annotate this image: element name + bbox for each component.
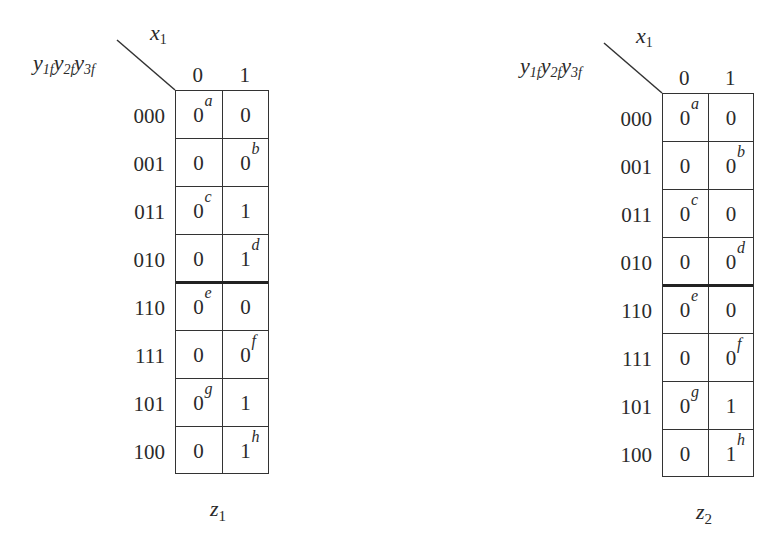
karnaugh-map-z2: x1y1fy2fy3f010000a000100b0110c001000d110… [0,0,781,543]
header-diagonal-line [600,41,670,101]
kmap-cell: 0 [662,156,708,177]
kmap-cell: 0 [662,300,708,321]
row-divider [663,429,753,430]
half-divider-thick [663,284,753,287]
kmap-cell: 0 [662,396,708,417]
kmap-cell: 1 [708,444,754,465]
function-name-label: z2 [696,499,712,528]
cell-state-tag: e [691,287,698,305]
cell-state-tag: g [691,383,699,401]
row-label-010: 010 [592,251,652,276]
kmap-cell: 0 [662,108,708,129]
kmap-cell: 1 [708,396,754,417]
function-subscript: 2 [705,511,713,527]
row-variable-subscript: 3f [571,65,582,80]
row-variable-name: y [541,53,551,78]
kmap-cell: 0 [708,348,754,369]
kmap-cell: 0 [662,444,708,465]
row-variable-subscript: 1f [530,65,541,80]
cell-state-tag: h [737,431,745,449]
row-label-001: 001 [592,155,652,180]
row-divider [663,189,753,190]
row-label-000: 000 [592,107,652,132]
column-header-0: 0 [679,66,690,91]
row-label-110: 110 [592,299,652,324]
row-label-011: 011 [592,203,652,228]
row-variable-name: y [520,53,530,78]
row-label-101: 101 [592,395,652,420]
cell-state-tag: b [737,143,745,161]
kmap-cell: 0 [708,156,754,177]
row-variable-subscript: 2f [550,65,561,80]
row-variable-name: y [561,53,571,78]
kmap-cell: 0 [708,204,754,225]
row-label-111: 111 [592,347,652,372]
row-divider [663,333,753,334]
kmap-cell: 0 [662,348,708,369]
column-variable-name: x [636,23,646,48]
row-divider [663,381,753,382]
column-header-1: 1 [725,66,736,91]
column-variable-label: x1 [636,23,653,51]
kmap-cell: 0 [708,108,754,129]
cell-state-tag: c [691,191,698,209]
cell-state-tag: f [737,335,741,353]
cell-state-tag: a [691,95,699,113]
cell-state-tag: d [737,239,745,257]
row-label-100: 100 [592,443,652,468]
row-variables-label: y1fy2fy3f [520,53,582,81]
function-name: z [696,499,705,524]
kmap-cell: 0 [662,204,708,225]
kmap-cell: 0 [708,252,754,273]
row-divider [663,141,753,142]
kmap-cell: 0 [662,252,708,273]
column-variable-subscript: 1 [646,35,653,50]
row-divider [663,237,753,238]
kmap-cell: 0 [708,300,754,321]
